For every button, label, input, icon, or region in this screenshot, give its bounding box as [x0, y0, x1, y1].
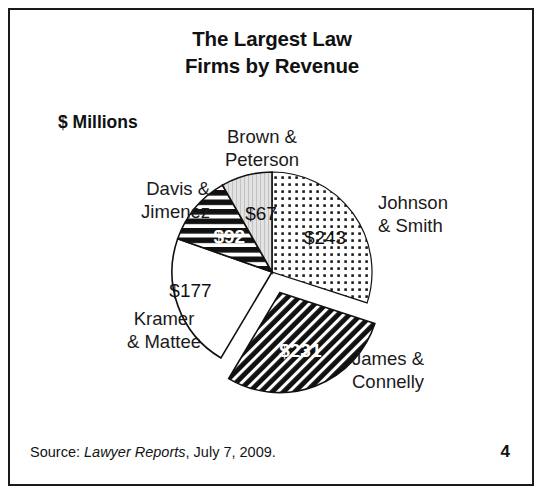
source-prefix: Source: [30, 444, 84, 460]
source-citation: Source: Lawyer Reports, July 7, 2009. [30, 444, 276, 460]
source-publication: Lawyer Reports [84, 444, 186, 460]
category-label-johnson-smith: Johnson & Smith [378, 192, 506, 237]
brown-peterson-line-2: Peterson [196, 149, 328, 172]
value-label-davis-jimenez: $92 [213, 226, 245, 248]
value-label-kramer-mattee: $177 [169, 280, 211, 302]
category-label-james-connelly: James & Connelly [352, 348, 492, 393]
title-line-1: The Largest Law [0, 26, 544, 53]
slide-border-frame [8, 8, 534, 486]
kramer-mattee-line-1: Kramer [96, 308, 232, 331]
kramer-mattee-line-2: & Mattee [96, 331, 232, 354]
slide-title: The Largest Law Firms by Revenue [0, 26, 544, 79]
value-label-johnson-smith: $243 [304, 227, 346, 249]
title-line-2: Firms by Revenue [0, 53, 544, 80]
brown-peterson-line-1: Brown & [196, 126, 328, 149]
value-label-brown-peterson: $67 [245, 203, 277, 225]
james-connelly-line-1: James & [352, 348, 492, 371]
category-label-brown-peterson: Brown & Peterson [196, 126, 328, 171]
category-label-davis-jimenez: Davis & Jimenez [90, 178, 210, 223]
source-suffix: , July 7, 2009. [186, 444, 276, 460]
johnson-smith-line-1: Johnson [378, 192, 506, 215]
page-number: 4 [501, 442, 510, 462]
category-label-kramer-mattee: Kramer & Mattee [96, 308, 232, 353]
davis-jimenez-line-1: Davis & [90, 178, 210, 201]
units-label: $ Millions [58, 112, 138, 133]
james-connelly-line-2: Connelly [352, 371, 492, 394]
johnson-smith-line-2: & Smith [378, 215, 506, 238]
value-label-james-connelly: $231 [279, 340, 321, 362]
davis-jimenez-line-2: Jimenez [90, 201, 210, 224]
slide-canvas: The Largest Law Firms by Revenue $ Milli… [0, 0, 544, 496]
